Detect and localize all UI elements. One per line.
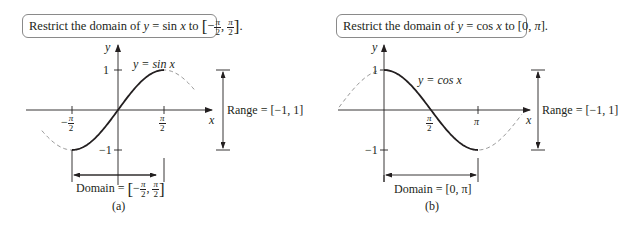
y-tick-neg1: −1	[99, 143, 112, 157]
x-tick-pi-half: π2	[159, 114, 166, 133]
title-eq: = cos	[463, 19, 496, 33]
domain-label-b: Domain = [0, π]	[394, 182, 471, 196]
caption-b: (b)	[425, 199, 439, 213]
title-end: ].	[541, 19, 548, 33]
domain-prefix: Domain =	[76, 181, 127, 195]
panel-b-title-box: Restrict the domain of y = cos x to [0, …	[336, 14, 527, 38]
range-label-a: Range = [−1, 1]	[227, 103, 303, 117]
caption-a: (a)	[112, 199, 125, 213]
title-eq: = sin	[149, 19, 180, 33]
title-to: to	[186, 19, 202, 33]
x-axis-label: x	[209, 113, 214, 127]
x-axis-label: x	[526, 113, 531, 127]
y-tick-1: 1	[103, 63, 109, 77]
x-tick-pi: π	[474, 115, 479, 129]
y-tick-1: 1	[372, 63, 378, 77]
y-axis-label: y	[372, 40, 377, 54]
minus: −	[133, 181, 140, 195]
title-text: Restrict the domain of	[29, 19, 144, 33]
x-tick-neg-pi-half: −π2	[61, 114, 74, 133]
x-tick-pi-half: π2	[426, 114, 433, 133]
minus: −	[61, 115, 68, 129]
den: 2	[159, 124, 166, 133]
panel-b-graph	[338, 45, 545, 182]
range-label-b: Range = [−1, 1]	[542, 103, 618, 117]
y-tick-neg1: −1	[365, 143, 378, 157]
panel-a-graph	[26, 45, 230, 185]
panel-a-title-box: Restrict the domain of y = sin x to [−π2…	[22, 14, 217, 38]
title-suffix: to [0,	[502, 19, 535, 33]
domain-label-a: Domain = [−π2, π2]	[76, 180, 165, 199]
y-axis-label: y	[105, 40, 110, 54]
title-text: Restrict the domain of	[343, 19, 458, 33]
fraction: π2	[214, 18, 221, 37]
curve-label-cos: y = cos x	[418, 73, 462, 87]
den: 2	[68, 124, 75, 133]
den: 2	[140, 190, 147, 199]
curve-label-sin: y = sin x	[133, 57, 175, 71]
den: 2	[426, 124, 433, 133]
den: 2	[214, 28, 221, 37]
minus: −	[207, 19, 214, 33]
